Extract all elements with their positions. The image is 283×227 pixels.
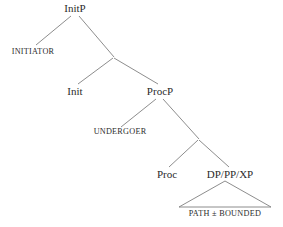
node-dp-pp-xp: DP/PP/XP [207,169,253,180]
node-path-bounded: PATH ± BOUNDED [189,210,262,218]
branch-bar2-to-dppp [199,140,229,167]
node-undergoer: UNDERGOER [94,128,147,136]
node-initiator: INITIATOR [12,48,55,56]
node-initp: InitP [64,3,85,14]
tree-branches [0,0,283,227]
branch-bar2-to-proc [169,140,198,167]
node-procp: ProcP [147,86,173,97]
path-bounded-triangle [179,181,271,207]
node-proc: Proc [157,169,177,180]
branch-bar-to-init [78,58,113,84]
node-init: Init [67,86,82,97]
branch-initp-to-initiator [36,16,71,45]
branch-procp-to-undergoer [121,99,156,127]
syntax-tree-figure: InitP INITIATOR Init ProcP UNDERGOER Pro… [0,0,283,227]
branch-initp-to-bar [79,16,114,57]
branch-bar-to-procp [114,58,158,84]
branch-procp-to-bar2 [163,99,199,139]
